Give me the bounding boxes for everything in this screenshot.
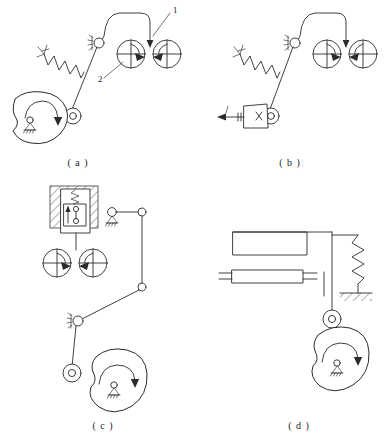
callout-1-leader-a	[153, 13, 170, 36]
callout-2-leader-a	[104, 62, 123, 78]
rocker-link-a	[71, 47, 97, 112]
cam-pivot-circle-a	[27, 117, 33, 123]
caption-b: ( b )	[279, 157, 301, 169]
spring-ground-b	[233, 45, 245, 57]
rotation-circle-right-c	[43, 249, 71, 277]
panel-c: ( c )	[43, 186, 147, 432]
lower-bar-end-marks-right-d	[303, 273, 317, 279]
rocker-pivot-c	[73, 316, 83, 326]
cam-pivot-circle-d	[334, 360, 340, 366]
cam-pivot-circle-c	[111, 382, 117, 388]
pivot-ground-hatch-b	[284, 35, 289, 50]
roller-inner-d	[328, 315, 335, 322]
pivot-joint-c	[108, 208, 117, 217]
link-bar-diagonal-c	[82, 290, 139, 319]
curved-output-link-a	[101, 13, 150, 42]
rocker-link-c	[72, 326, 76, 367]
panel-d: ( d )	[219, 232, 372, 432]
return-spring-d	[352, 235, 364, 284]
rocker-pivot-ground-c	[67, 313, 72, 328]
pivot-triangle-c	[107, 216, 117, 223]
figure-root: 1	[0, 0, 390, 439]
spring-ground-a	[37, 45, 49, 57]
pivot-joint-b	[290, 38, 300, 48]
lower-bar-end-marks-left-d	[219, 273, 232, 279]
upper-bar-d	[233, 232, 307, 255]
panel-b: ( b )	[217, 13, 377, 169]
link-joint-upper-c	[138, 208, 146, 216]
pivot-hatch-c	[106, 223, 119, 226]
panel-a: 1	[13, 5, 181, 169]
roller-inner-b	[268, 113, 275, 120]
pivot-ground-hatch-a	[88, 35, 93, 50]
rotation-circle-left-b	[349, 40, 377, 68]
slider-block-b	[244, 104, 268, 128]
callout-2-label-a: 2	[98, 74, 103, 84]
pivot-joint-a	[94, 38, 104, 48]
spring-b	[240, 54, 280, 78]
caption-c: ( c )	[92, 420, 113, 432]
valve-spool-upper-c	[73, 206, 78, 211]
rotation-circle-right-b	[313, 40, 341, 68]
mechanism-diagram-svg: 1	[0, 0, 390, 439]
input-force-arrow-b	[217, 106, 244, 121]
rotation-circle-left-a	[153, 40, 181, 68]
callout-1-label-a: 1	[173, 5, 178, 15]
roller-inner-c	[68, 369, 75, 376]
spring-a	[44, 54, 84, 78]
caption-d: ( d )	[288, 420, 310, 432]
roller-inner-a	[70, 113, 77, 120]
rocker-link-b	[269, 47, 293, 112]
arrowhead-a	[147, 40, 154, 48]
lower-bar-d	[232, 270, 303, 283]
curved-output-link-b	[297, 13, 346, 42]
spring-ground-hatch-d	[340, 293, 372, 301]
arrowhead-b	[343, 40, 350, 48]
caption-a: ( a )	[67, 157, 88, 169]
rotation-circle-left-c	[79, 249, 107, 277]
